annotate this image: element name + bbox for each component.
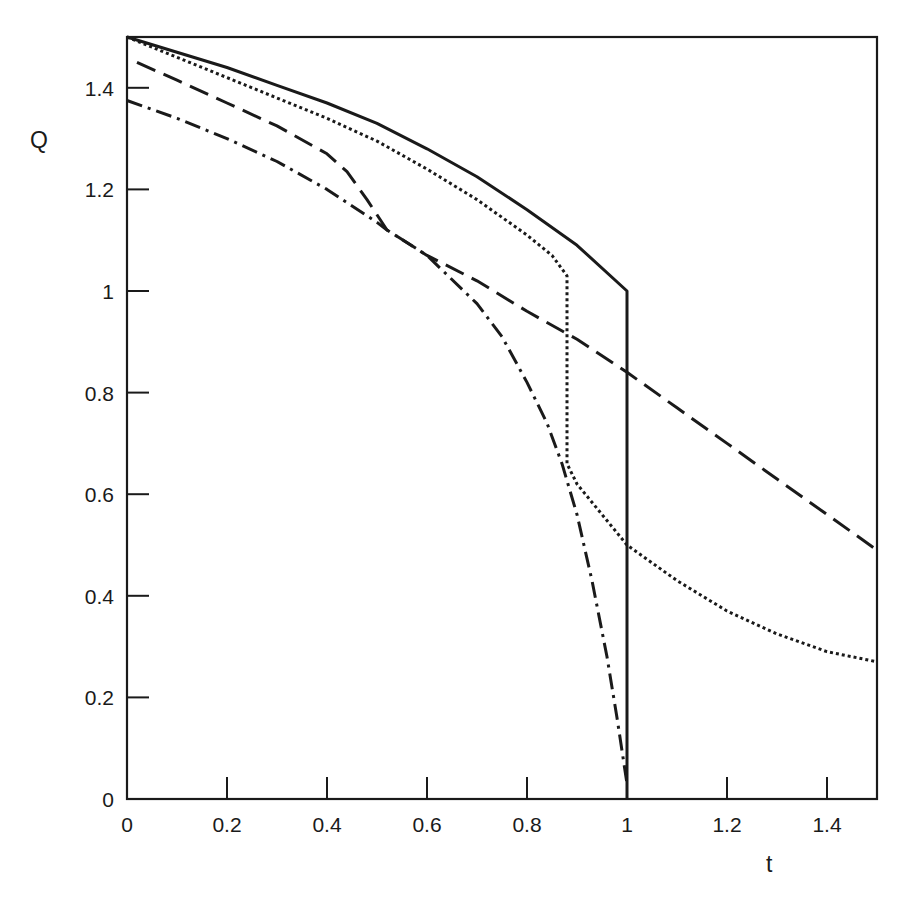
line-chart: 00.20.40.60.811.21.4 00.20.40.60.811.21.… [0,0,913,902]
y-tick-label: 1.2 [85,178,114,201]
y-axis-ticks: 00.20.40.60.811.21.4 [85,77,149,811]
x-tick-label: 0.8 [512,813,541,836]
y-tick-label: 1.4 [85,77,115,100]
x-tick-label: 1.4 [812,813,842,836]
x-axis-ticks: 00.20.40.60.811.21.4 [121,777,842,836]
series-line-dash-dot [127,101,627,784]
y-tick-label: 1 [102,280,114,303]
y-axis-label: Q [30,127,48,153]
y-tick-label: 0.6 [85,483,114,506]
x-tick-label: 1 [621,813,633,836]
x-axis-label: t [766,851,773,877]
x-tick-label: 0.4 [312,813,342,836]
plot-frame [127,37,877,799]
y-tick-label: 0.2 [85,686,114,709]
y-tick-label: 0.4 [85,585,115,608]
series-line-dashed [137,62,877,550]
y-tick-label: 0.8 [85,382,114,405]
series-line-solid [127,37,627,799]
x-tick-label: 0 [121,813,133,836]
series-lines [127,37,877,799]
series-line-dotted [127,37,877,662]
x-tick-label: 0.6 [412,813,441,836]
x-tick-label: 1.2 [712,813,741,836]
y-tick-label: 0 [102,788,114,811]
x-tick-label: 0.2 [212,813,241,836]
